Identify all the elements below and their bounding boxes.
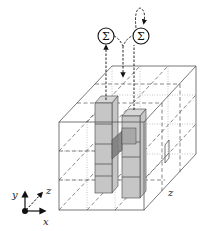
z-axis-label: z — [45, 185, 52, 196]
highlighted-columns — [95, 96, 146, 198]
coordinate-axes: y z x — [11, 185, 52, 227]
y-axis-label: y — [11, 189, 18, 200]
summation-flow: Σ Σ — [98, 8, 149, 110]
svg-text:Σ: Σ — [102, 30, 110, 43]
z-axis-arrow — [26, 194, 41, 210]
voxel-summation-diagram: Σ Σ z y z x — [0, 0, 207, 231]
x-axis-label: x — [43, 216, 49, 227]
loop-arrow — [136, 8, 145, 28]
svg-text:Σ: Σ — [137, 30, 145, 43]
sum-node-left: Σ — [98, 28, 114, 44]
side-z-label: z — [167, 187, 174, 198]
center-mid-cell — [122, 128, 136, 144]
sum-node-right: Σ — [133, 28, 149, 44]
right-face-marker — [165, 140, 169, 163]
v-connector — [114, 36, 132, 46]
